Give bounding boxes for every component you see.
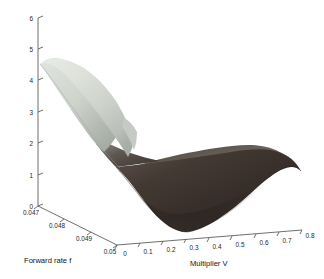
x-tick-07: 0.7 [277,232,292,244]
z-tick-label: 6 [29,15,33,22]
y-tick-label: 0.047 [23,209,39,216]
x-tick-label: 0.5 [236,241,245,248]
z-tick-5: 5 [29,46,43,53]
y-tick-0048: 0.048 [49,219,65,229]
x-tick-03: 0.3 [184,239,199,251]
y-tick-005: 0.05 [104,245,117,255]
x-tick-label: 0.8 [306,232,315,239]
z-tick-3: 3 [29,109,43,116]
z-tick-2: 2 [29,140,43,147]
x-tick-label: 0.4 [213,243,222,250]
y-axis-title: Forward rate f [24,256,72,265]
x-tick-label: 0.2 [167,246,176,253]
z-tick-label: 1 [29,172,33,179]
y-tick-0049: 0.049 [76,232,92,242]
x-tick-label: 0.3 [190,244,199,251]
y-tick-label: 0.05 [104,248,117,255]
x-axis-ticks: 0 0.1 0.2 0.3 0.4 0.5 [115,230,315,257]
x-tick-label: 0 [123,250,127,257]
x-tick-05: 0.5 [230,236,245,248]
z-tick-label: 2 [29,140,33,147]
x-tick-02: 0.2 [161,241,176,253]
x-tick-label: 0.6 [260,239,269,246]
z-tick-label: 4 [29,77,33,84]
z-tick-label: 3 [29,109,33,116]
x-tick-06: 0.6 [254,234,269,246]
x-tick-04: 0.4 [207,238,222,250]
z-tick-6: 6 [29,15,43,22]
z-tick-4: 4 [29,77,43,84]
x-tick-label: 0.7 [283,237,292,244]
z-axis-ticks: 6 5 4 3 2 1 0 [29,15,43,210]
y-tick-label: 0.049 [76,235,92,242]
surface-mesh [40,58,301,232]
x-tick-0: 0 [115,245,127,257]
z-tick-label: 5 [29,46,33,53]
x-tick-08: 0.8 [300,230,315,239]
x-axis-line [117,230,302,245]
surface-plot: 6 5 4 3 2 1 0 0.047 0.048 [0,0,324,279]
x-axis-title: Multiplier V [190,259,228,268]
y-tick-label: 0.048 [49,222,65,229]
figure-canvas: 6 5 4 3 2 1 0 0.047 0.048 [0,0,324,279]
x-tick-01: 0.1 [138,243,153,255]
y-axis-ticks: 0.047 0.048 0.049 0.05 [23,206,117,255]
x-tick-label: 0.1 [144,248,153,255]
z-tick-1: 1 [29,172,43,179]
